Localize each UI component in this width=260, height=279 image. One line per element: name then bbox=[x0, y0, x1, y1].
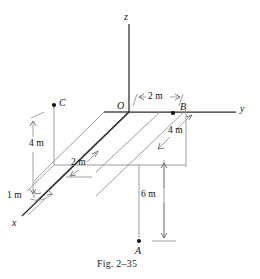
figure-container: z y x C O B A 2 m 4 m 4 m 2 m 6 m 1 m Fi… bbox=[0, 0, 260, 279]
point-label-o: O bbox=[117, 101, 124, 111]
dimension-label-6m: 6 m bbox=[141, 190, 156, 200]
dimension-label-1m: 1 m bbox=[7, 191, 22, 201]
dimension-label-2m-mid: 2 m bbox=[71, 158, 86, 168]
construction-line-mid-slant bbox=[96, 112, 160, 172]
dim-1m-arrowhead-a bbox=[33, 190, 41, 194]
dim-4m-left-extension-top bbox=[31, 112, 44, 118]
dim-2m-top-extension-left bbox=[133, 94, 137, 106]
point-label-c: C bbox=[59, 98, 66, 108]
dimension-label-2m-top: 2 m bbox=[148, 92, 163, 102]
point-dot-c bbox=[52, 103, 56, 107]
dimension-label-4m-right: 4 m bbox=[168, 126, 183, 136]
axis-label-y: y bbox=[240, 104, 244, 114]
dim-2m-mid-arrowhead-lower bbox=[70, 171, 76, 176]
construction-line-c-base-slant bbox=[27, 165, 54, 191]
point-dot-a bbox=[137, 239, 141, 243]
axis-label-x: x bbox=[12, 218, 16, 228]
figure-caption: Fig. 2–35 bbox=[97, 259, 137, 269]
axis-label-z: z bbox=[124, 12, 128, 22]
point-dot-b bbox=[171, 111, 175, 115]
construction-line-b-slant bbox=[96, 110, 186, 196]
dim-2m-mid-leader-upper bbox=[87, 153, 96, 162]
point-label-b: B bbox=[180, 102, 186, 112]
point-label-a: A bbox=[135, 246, 141, 256]
dimension-label-4m-left: 4 m bbox=[29, 139, 44, 149]
